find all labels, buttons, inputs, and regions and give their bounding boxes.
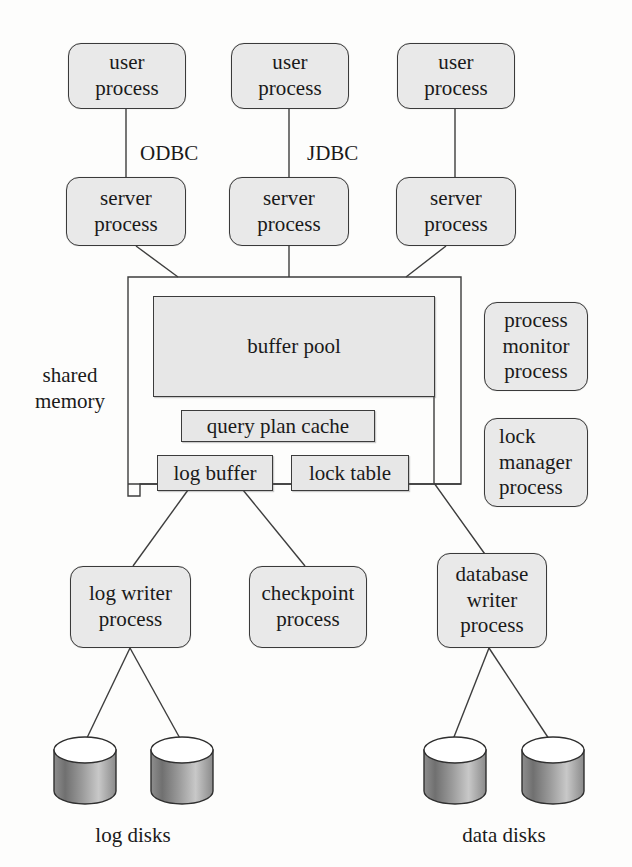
database-writer-label-line3: process: [460, 613, 524, 639]
process-monitor-label-line2: monitor: [502, 334, 569, 360]
user-process-label-1-line2: process: [95, 76, 159, 102]
server-process-box-3[interactable]: server process: [396, 177, 516, 246]
server-process-label-2-line1: server: [263, 186, 315, 212]
log-disks-label: log disks: [63, 822, 203, 848]
wire-dbwriter-datadisk1: [452, 648, 489, 742]
server-process-label-3-line2: process: [424, 212, 488, 238]
log-disk-2[interactable]: [150, 735, 214, 813]
wire-server3-sharedmem: [406, 246, 446, 277]
server-process-label-3-line1: server: [430, 186, 482, 212]
server-process-label-1-line1: server: [100, 186, 152, 212]
process-monitor-label-line3: process: [504, 359, 568, 385]
process-monitor-label-line1: process: [504, 308, 568, 334]
checkpoint-label-line1: checkpoint: [261, 581, 354, 607]
wire-dbwriter-datadisk2: [489, 648, 551, 742]
query-plan-cache-box[interactable]: query plan cache: [181, 410, 375, 442]
database-writer-label-line1: database: [455, 562, 528, 588]
checkpoint-label-line2: process: [276, 607, 340, 633]
wire-logwriter-logdisk2: [130, 648, 182, 742]
user-process-label-2-line1: user: [272, 50, 307, 76]
data-disks-label: data disks: [434, 822, 574, 848]
checkpoint-process-box[interactable]: checkpoint process: [249, 566, 367, 648]
lock-manager-process-box[interactable]: lock manager process: [484, 418, 588, 507]
wire-logbuffer-checkpoint: [243, 490, 305, 566]
process-monitor-process-box[interactable]: process monitor process: [484, 302, 588, 391]
lock-manager-label-line3: process: [499, 475, 563, 501]
log-buffer-box[interactable]: log buffer: [157, 455, 273, 491]
log-writer-label-line2: process: [99, 607, 163, 633]
buffer-pool-box[interactable]: buffer pool: [153, 296, 435, 397]
shared-memory-label-line2: memory: [24, 388, 116, 414]
jdbc-label: JDBC: [307, 140, 358, 166]
wire-server1-sharedmem: [136, 246, 178, 277]
lock-table-box[interactable]: lock table: [291, 455, 409, 491]
user-process-box-1[interactable]: user process: [68, 43, 186, 109]
server-process-box-1[interactable]: server process: [66, 177, 186, 246]
user-process-label-1-line1: user: [109, 50, 144, 76]
lock-table-label: lock table: [309, 461, 391, 486]
server-process-label-2-line2: process: [257, 212, 321, 238]
server-process-label-1-line2: process: [94, 212, 158, 238]
user-process-label-3-line1: user: [438, 50, 473, 76]
log-writer-process-box[interactable]: log writer process: [70, 566, 191, 648]
data-disk-1[interactable]: [423, 735, 487, 813]
shared-memory-label-line1: shared: [24, 362, 116, 388]
log-disk-1[interactable]: [53, 735, 117, 813]
data-disk-2[interactable]: [521, 735, 585, 813]
lock-manager-label-line2: manager: [499, 450, 572, 476]
odbc-label: ODBC: [140, 140, 198, 166]
user-process-box-2[interactable]: user process: [231, 43, 349, 109]
database-writer-process-box[interactable]: database writer process: [437, 553, 547, 648]
database-writer-label-line2: writer: [467, 588, 518, 614]
log-writer-label-line1: log writer: [89, 581, 172, 607]
query-plan-cache-label: query plan cache: [207, 414, 349, 439]
server-process-box-2[interactable]: server process: [229, 177, 349, 246]
buffer-pool-label: buffer pool: [247, 334, 341, 359]
user-process-label-3-line2: process: [424, 76, 488, 102]
wire-logwriter-logdisk1: [85, 648, 130, 742]
user-process-label-2-line2: process: [258, 76, 322, 102]
log-buffer-label: log buffer: [173, 461, 256, 486]
shared-memory-label: shared memory: [24, 362, 116, 415]
lock-manager-label-line1: lock: [499, 424, 536, 450]
user-process-box-3[interactable]: user process: [397, 43, 515, 109]
diagram-canvas: user process user process user process O…: [0, 0, 632, 867]
wire-logbuffer-logwriter: [133, 490, 188, 566]
